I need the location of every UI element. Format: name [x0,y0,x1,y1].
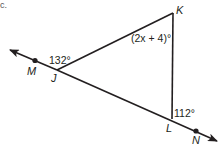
triangle-diagram: M J K L N 132° (2x + 4)° 112° [0,0,220,146]
label-n: N [192,134,200,146]
ray-toward-n [57,70,217,141]
label-l: L [166,122,172,134]
angle-j-exterior: 132° [49,54,71,66]
side-kl [172,13,173,119]
label-m: M [27,65,37,77]
label-k: K [176,4,184,16]
angle-l-exterior: 112° [174,107,195,119]
point-n-dot [193,128,198,133]
point-m-dot [32,58,37,63]
label-j: J [50,72,57,84]
angle-k-interior: (2x + 4)° [131,32,171,44]
